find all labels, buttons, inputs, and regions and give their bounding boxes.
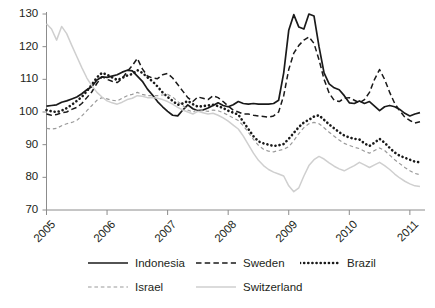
legend-label: Sweden [243, 257, 285, 269]
line-chart: 708090100110120130 200520062007200820092… [0, 0, 435, 308]
legend-item-indonesia[interactable]: Indonesia [88, 252, 185, 274]
legend-row-2: IsraelSwitzerland [0, 276, 435, 298]
chart-legend: IndonesiaSwedenBrazil IsraelSwitzerland [0, 252, 435, 308]
solid-line-black-icon [88, 257, 128, 269]
axis-lines [43, 12, 426, 215]
solid-line-lightgray-icon [196, 281, 236, 293]
y-tick-label: 80 [8, 171, 38, 182]
legend-item-israel[interactable]: Israel [88, 276, 163, 298]
legend-label: Switzerland [243, 281, 302, 293]
legend-item-sweden[interactable]: Sweden [196, 252, 285, 274]
series-lines [47, 14, 420, 192]
y-tick-label: 110 [8, 73, 38, 84]
legend-row-1: IndonesiaSwedenBrazil [0, 252, 435, 274]
dashed-line-gray-icon [88, 281, 128, 293]
y-tick-label: 130 [8, 8, 38, 19]
y-tick-label: 90 [8, 139, 38, 150]
dotted-line-black-icon [300, 257, 340, 269]
legend-item-switzerland[interactable]: Switzerland [196, 276, 302, 298]
y-tick-label: 70 [8, 204, 38, 215]
y-tick-label: 100 [8, 106, 38, 117]
legend-item-brazil[interactable]: Brazil [300, 252, 376, 274]
series-line-sweden [47, 37, 420, 123]
series-line-brazil [47, 70, 420, 162]
dashed-line-black-icon [196, 257, 236, 269]
series-line-switzerland [47, 24, 420, 192]
legend-label: Israel [135, 281, 163, 293]
legend-label: Indonesia [135, 257, 185, 269]
y-tick-label: 120 [8, 41, 38, 52]
legend-label: Brazil [347, 257, 376, 269]
